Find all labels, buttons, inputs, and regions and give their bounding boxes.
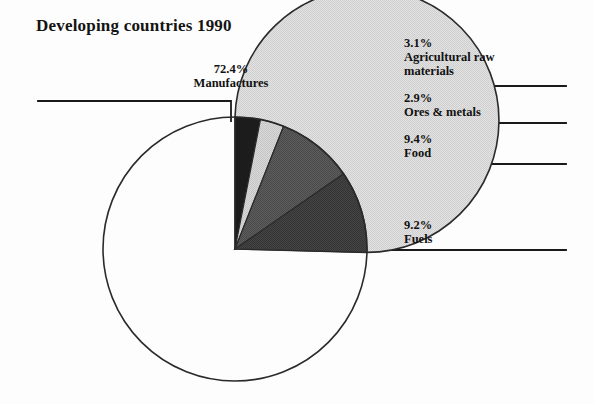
callout-agricultural: 3.1% Agricultural raw materials xyxy=(404,36,529,78)
callout-manufactures: 72.4% Manufactures xyxy=(148,62,314,90)
callout-agricultural-value: 3.1% xyxy=(404,36,529,50)
callout-ores-value: 2.9% xyxy=(404,91,481,105)
pie-chart-figure: Developing countries 1990 xyxy=(0,0,594,404)
callout-fuels: 9.2% Fuels xyxy=(404,218,432,246)
callout-food-value: 9.4% xyxy=(404,132,432,146)
callout-food: 9.4% Food xyxy=(404,132,432,160)
callout-fuels-value: 9.2% xyxy=(404,218,432,232)
callout-fuels-label: Fuels xyxy=(404,232,432,246)
callout-food-label: Food xyxy=(404,146,432,160)
leader-line-manufactures xyxy=(38,101,231,121)
callout-ores-label: Ores & metals xyxy=(404,105,481,119)
callout-agricultural-label: Agricultural raw materials xyxy=(404,50,529,78)
callout-manufactures-value: 72.4% xyxy=(148,62,314,76)
callout-manufactures-label: Manufactures xyxy=(148,76,314,90)
callout-ores: 2.9% Ores & metals xyxy=(404,91,481,119)
